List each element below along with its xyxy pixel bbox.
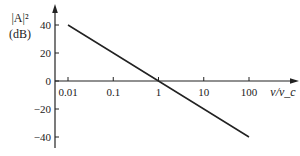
x-tick-label: 0.01 — [58, 86, 77, 98]
y-tick-label: 40 — [40, 19, 52, 31]
y-tick-label: −40 — [34, 131, 52, 143]
y-axis-unit: (dB) — [9, 27, 31, 41]
x-axis-title: ν/ν_c — [270, 85, 296, 99]
y-tick-label: 0 — [46, 75, 52, 87]
y-tick-label: −20 — [34, 103, 52, 115]
x-tick-label: 10 — [198, 86, 210, 98]
bode-plot-chart: 40200−20−40 0.010.1110100 |A|² (dB) ν/ν_… — [0, 0, 300, 156]
x-tick-label: 100 — [241, 86, 258, 98]
y-tick-label: 20 — [40, 47, 52, 59]
y-axis-title: |A|² — [11, 11, 28, 25]
x-axis-arrow-icon — [290, 78, 299, 84]
x-tick-label: 1 — [156, 86, 162, 98]
y-axis-arrow-icon — [52, 4, 58, 13]
x-tick-label: 0.1 — [106, 86, 120, 98]
